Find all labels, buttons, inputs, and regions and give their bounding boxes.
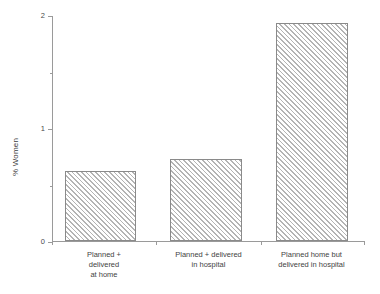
y-tick-label: 1: [41, 124, 45, 133]
bar-planned-delivered-at-home: [65, 171, 136, 241]
y-axis-title: % Women: [0, 0, 30, 294]
x-tick-mark: [261, 242, 262, 245]
x-axis-line: [52, 241, 365, 242]
y-tick-label: 2: [41, 11, 45, 20]
bar-planned-delivered-in-hospital: [170, 159, 242, 242]
x-tick-mark: [156, 242, 157, 245]
y-tick-label: 0: [41, 237, 45, 246]
x-category-label-1: Planned + delivered in hospital: [156, 250, 261, 270]
plot-area: 2 1 0: [52, 16, 365, 242]
y-axis-line: [52, 16, 53, 242]
y-tick-mark: [48, 129, 52, 130]
y-axis-title-text: % Women: [11, 138, 20, 176]
bar-chart: % Women 2 1 0: [0, 0, 380, 294]
x-category-label-0: Planned + delivered at home: [52, 250, 156, 280]
x-tick-mark: [52, 242, 53, 245]
bar-planned-home-delivered-in-hospital: [276, 23, 348, 241]
x-axis-category-labels: Planned + delivered at home Planned + de…: [52, 250, 365, 294]
x-tick-mark: [364, 242, 365, 245]
x-category-label-2: Planned home but delivered in hospital: [258, 250, 365, 270]
y-tick-mark: [48, 16, 52, 17]
y-tick-mark-minor: [50, 73, 52, 74]
y-tick-mark-minor: [50, 186, 52, 187]
